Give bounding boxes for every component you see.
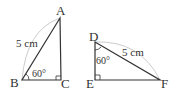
angle-arc-d (95, 47, 101, 50)
vertex-label-b: B (10, 75, 19, 90)
vertex-label-f: F (161, 76, 168, 91)
side-label-df: 5 cm (122, 46, 144, 58)
vertex-label-e: E (86, 76, 94, 91)
triangle-def: D E F 5 cm 60° (86, 29, 168, 91)
side-label-ab: 5 cm (16, 37, 38, 49)
angle-label-d: 60° (96, 55, 110, 66)
vertex-label-a: A (56, 3, 66, 18)
vertex-label-c: C (61, 76, 70, 91)
angle-label-b: 60° (32, 68, 46, 79)
right-angle-mark-e (95, 75, 100, 80)
diagram-canvas: A B C 5 cm 60° D E F 5 cm 60° (0, 0, 178, 94)
vertex-label-d: D (89, 29, 98, 44)
triangle-abc: A B C 5 cm 60° (10, 3, 70, 91)
angle-arc-b (26, 74, 29, 80)
